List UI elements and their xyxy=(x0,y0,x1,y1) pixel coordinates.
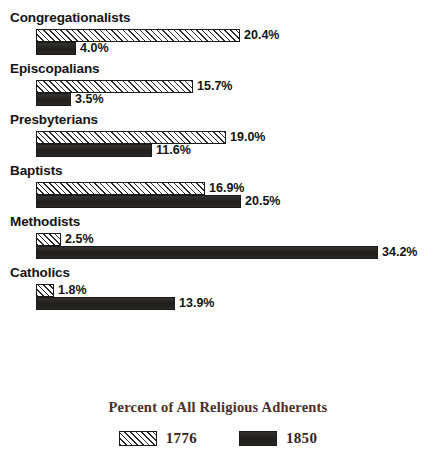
bar-value-label: 16.9% xyxy=(209,182,244,195)
bar-chart: Congregationalists 20.4% 4.0% Episcopali… xyxy=(0,0,436,464)
legend-item-1776[interactable]: 1776 xyxy=(119,430,197,447)
bar-value-label: 1.8% xyxy=(58,284,87,297)
category-label: Catholics xyxy=(0,265,436,281)
bar-1776[interactable] xyxy=(36,29,240,42)
bar-value-label: 19.0% xyxy=(230,131,265,144)
bar-group-bars: 2.5% 34.2% xyxy=(0,233,436,259)
bar-row-1850: 20.5% xyxy=(36,195,436,208)
bar-1776[interactable] xyxy=(36,131,226,144)
bar-row-1850: 34.2% xyxy=(36,246,436,259)
bar-group-bars: 20.4% 4.0% xyxy=(0,29,436,55)
bar-group-bars: 1.8% 13.9% xyxy=(0,284,436,310)
category-label: Congregationalists xyxy=(0,10,436,26)
bar-value-label: 13.9% xyxy=(179,297,214,310)
bar-row-1776: 19.0% xyxy=(36,131,436,144)
bar-row-1850: 3.5% xyxy=(36,93,436,106)
bar-value-label: 15.7% xyxy=(197,80,232,93)
bar-row-1776: 1.8% xyxy=(36,284,436,297)
axis-title: Percent of All Religious Adherents xyxy=(0,399,436,416)
bar-1776[interactable] xyxy=(36,80,193,93)
bar-row-1850: 11.6% xyxy=(36,144,436,157)
bar-group: Catholics 1.8% 13.9% xyxy=(0,265,436,310)
bar-row-1776: 16.9% xyxy=(36,182,436,195)
bar-value-label: 11.6% xyxy=(156,144,191,157)
solid-swatch-icon xyxy=(239,431,277,446)
bar-row-1776: 2.5% xyxy=(36,233,436,246)
bar-1850[interactable] xyxy=(36,144,152,157)
bar-1850[interactable] xyxy=(36,42,76,55)
legend-item-1850[interactable]: 1850 xyxy=(239,430,317,447)
bar-row-1850: 13.9% xyxy=(36,297,436,310)
chart-legend: 1776 1850 xyxy=(0,430,436,447)
bar-1850[interactable] xyxy=(36,195,241,208)
category-label: Baptists xyxy=(0,163,436,179)
bar-group-bars: 19.0% 11.6% xyxy=(0,131,436,157)
category-label: Presbyterians xyxy=(0,112,436,128)
bar-1850[interactable] xyxy=(36,246,378,259)
bar-1776[interactable] xyxy=(36,284,54,297)
bar-value-label: 34.2% xyxy=(382,246,417,259)
category-label: Episcopalians xyxy=(0,61,436,77)
bar-value-label: 20.5% xyxy=(245,195,280,208)
bar-group: Episcopalians 15.7% 3.5% xyxy=(0,61,436,106)
bar-1850[interactable] xyxy=(36,297,175,310)
bar-group: Methodists 2.5% 34.2% xyxy=(0,214,436,259)
bar-row-1850: 4.0% xyxy=(36,42,436,55)
bar-value-label: 3.5% xyxy=(75,93,104,106)
bar-1776[interactable] xyxy=(36,233,61,246)
category-label: Methodists xyxy=(0,214,436,230)
bar-value-label: 2.5% xyxy=(65,233,94,246)
legend-label: 1850 xyxy=(286,430,317,447)
bar-group: Congregationalists 20.4% 4.0% xyxy=(0,10,436,55)
bar-1850[interactable] xyxy=(36,93,71,106)
bar-value-label: 20.4% xyxy=(244,29,279,42)
bar-group-bars: 15.7% 3.5% xyxy=(0,80,436,106)
bar-group: Baptists 16.9% 20.5% xyxy=(0,163,436,208)
bar-value-label: 4.0% xyxy=(80,42,109,55)
legend-label: 1776 xyxy=(166,430,197,447)
chart-plot-area: Congregationalists 20.4% 4.0% Episcopali… xyxy=(0,10,436,316)
bar-1776[interactable] xyxy=(36,182,205,195)
hatched-swatch-icon xyxy=(119,431,157,446)
bar-group-bars: 16.9% 20.5% xyxy=(0,182,436,208)
bar-group: Presbyterians 19.0% 11.6% xyxy=(0,112,436,157)
